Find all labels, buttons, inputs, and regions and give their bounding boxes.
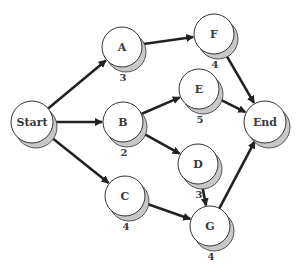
- node-label: E: [195, 83, 203, 96]
- duration-label: 4: [212, 59, 219, 70]
- node-label: C: [121, 190, 130, 203]
- node-label: Start: [16, 116, 48, 129]
- node-label: F: [210, 28, 218, 41]
- node-c: C4: [105, 176, 149, 232]
- edge-b-to-e: [141, 97, 179, 114]
- network-diagram: StartA3B2C4F4E5D3G4End: [0, 0, 297, 267]
- duration-label: 3: [196, 189, 203, 200]
- node-label: B: [118, 116, 127, 129]
- node-end: End: [244, 101, 290, 148]
- node-e: E5: [179, 69, 223, 125]
- edges: [48, 37, 255, 219]
- edge-f-to-end: [224, 51, 254, 103]
- edge-c-to-g: [144, 203, 190, 219]
- node-label: A: [117, 41, 127, 54]
- edge-b-to-d: [140, 132, 179, 154]
- duration-label: 3: [120, 72, 127, 83]
- node-g: G4: [190, 206, 234, 262]
- edge-g-to-end: [219, 141, 254, 208]
- node-label: End: [253, 116, 277, 129]
- duration-label: 5: [197, 114, 204, 125]
- edge-start-to-a: [48, 60, 106, 108]
- duration-label: 4: [208, 251, 215, 262]
- edge-a-to-f: [142, 37, 193, 44]
- duration-label: 4: [123, 221, 130, 232]
- node-label: D: [193, 158, 203, 171]
- edge-start-to-c: [48, 135, 108, 183]
- node-d: D3: [178, 144, 222, 200]
- node-label: G: [205, 220, 214, 233]
- node-b: B2: [103, 102, 147, 158]
- node-a: A3: [102, 27, 146, 83]
- duration-label: 2: [121, 147, 128, 158]
